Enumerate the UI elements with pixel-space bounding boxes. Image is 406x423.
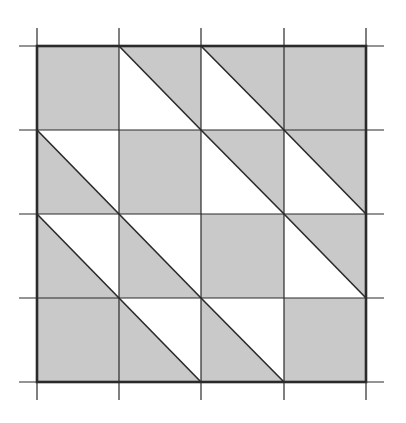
quilt-grid-diagram [0, 0, 406, 423]
shaded-region [119, 130, 201, 214]
shaded-region [201, 214, 284, 298]
shaded-region [37, 46, 119, 130]
shaded-region [284, 298, 366, 382]
shaded-region [37, 298, 119, 382]
shaded-region [284, 46, 366, 130]
